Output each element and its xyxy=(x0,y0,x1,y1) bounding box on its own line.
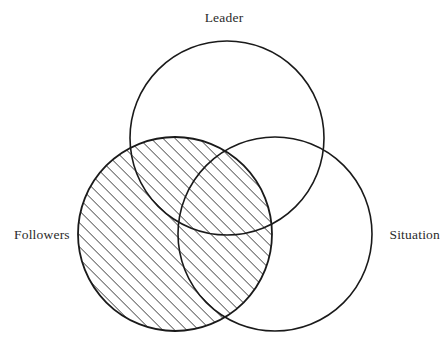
label-situation: Situation xyxy=(389,228,440,242)
venn-diagram-canvas xyxy=(0,0,448,349)
label-leader: Leader xyxy=(0,11,448,25)
label-followers: Followers xyxy=(14,228,70,242)
venn-diagram: Leader Followers Situation xyxy=(0,0,448,349)
